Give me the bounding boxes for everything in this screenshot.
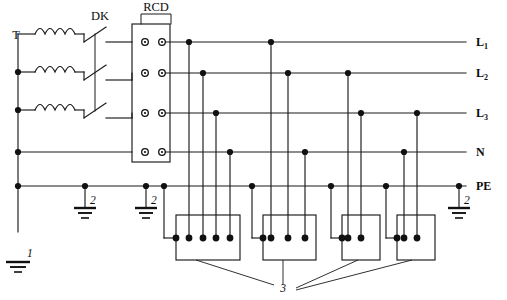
tap-node-s4-N — [401, 149, 407, 155]
socket-3-terminal-PE — [339, 235, 346, 242]
bus-label-L3-sub: 3 — [484, 113, 488, 122]
socket-1-terminal-PE — [173, 235, 180, 242]
junction-node-star-3 — [15, 149, 21, 155]
callout-label-2b: 2 — [151, 194, 157, 206]
tap-node-s2-L1 — [268, 39, 274, 45]
tap-node-s2-N — [302, 149, 308, 155]
winding-3-coil — [35, 105, 75, 111]
main-switch-label: DK — [91, 9, 109, 23]
junction-node-star-pe — [15, 183, 21, 189]
tap-node-s1-PE — [161, 183, 167, 189]
tap-node-s3-PE — [328, 183, 334, 189]
socket-1-terminal-N — [227, 235, 234, 242]
bus-label-L3-base: L — [476, 106, 484, 120]
rcd-input-terminals — [142, 39, 149, 156]
callout-label-1: 1 — [27, 247, 33, 259]
earth-2a-node — [82, 183, 88, 189]
junction-node-star-1 — [15, 69, 21, 75]
socket-2-drops — [249, 39, 308, 238]
socket-2-terminal-L1 — [268, 235, 275, 242]
leader-socket-4 — [296, 260, 412, 290]
rcd-label: RCD — [143, 0, 169, 14]
schematic-canvas: T DK RCD L 1 L 2 L 3 N PE 1 2 2 2 3 — [0, 0, 507, 300]
callout-3-leaders — [196, 260, 412, 290]
callout-label-2c: 2 — [464, 194, 470, 206]
socket-4-drops — [383, 110, 420, 238]
transformer-group — [15, 29, 132, 233]
bus-label-L2-base: L — [476, 66, 484, 80]
bus-label-N: N — [476, 145, 485, 159]
socket-1-terminal-L2 — [200, 235, 207, 242]
socket-3-drops — [328, 70, 364, 238]
socket-4-terminal-PE — [394, 235, 401, 242]
socket-2-terminal-PE — [260, 235, 267, 242]
socket-1-drops — [161, 39, 233, 238]
bus-lines — [18, 42, 466, 186]
tap-node-s1-L3 — [213, 110, 219, 116]
earth-2b-node — [143, 183, 149, 189]
leader-socket-3 — [296, 260, 358, 288]
rcd-terminal-in-L1-core — [144, 41, 146, 43]
tap-node-s3-L2 — [345, 70, 351, 76]
rcd-terminal-out-L1-core — [161, 41, 163, 43]
bus-label-L1-base: L — [476, 35, 484, 49]
bus-label-L3: L 3 — [476, 106, 488, 122]
bus-label-L2-sub: 2 — [484, 73, 488, 82]
tap-node-s2-PE — [249, 183, 255, 189]
winding-1-coil — [35, 29, 75, 35]
tap-node-s2-L2 — [285, 70, 291, 76]
rcd-group[interactable] — [132, 14, 171, 162]
socket-4-terminal-N — [401, 235, 408, 242]
socket-1-terminal-L1 — [186, 235, 193, 242]
earth-2c-node — [456, 183, 462, 189]
rcd-output-terminals — [159, 39, 166, 156]
winding-2-coil — [35, 67, 75, 73]
socket-4-terminal-L3 — [414, 235, 421, 242]
socket-3-terminal-L2 — [345, 235, 352, 242]
tap-node-s4-L3 — [414, 110, 420, 116]
socket-outlet-4[interactable] — [394, 215, 435, 260]
rcd-terminal-in-N-core — [144, 151, 146, 153]
tap-node-s1-N — [227, 149, 233, 155]
socket-2-terminal-L2 — [285, 235, 292, 242]
rcd-terminal-out-N-core — [161, 151, 163, 153]
socket-1-terminal-L3 — [213, 235, 220, 242]
tap-node-s3-L3 — [358, 110, 364, 116]
bus-label-L1-sub: 1 — [484, 42, 488, 51]
bus-label-PE: PE — [476, 179, 491, 193]
rcd-terminal-out-L3-core — [161, 112, 163, 114]
socket-outlet-3[interactable] — [339, 215, 380, 260]
circuit-diagram: T DK RCD L 1 L 2 L 3 N PE 1 2 2 2 3 — [0, 0, 507, 300]
rcd-terminal-in-L3-core — [144, 112, 146, 114]
main-switch-group[interactable] — [84, 27, 132, 118]
rcd-label-bracket — [141, 14, 171, 24]
leader-socket-1 — [196, 260, 274, 285]
socket-2-terminal-N — [302, 235, 309, 242]
tap-node-s1-L1 — [186, 39, 192, 45]
tap-node-s1-L2 — [200, 70, 206, 76]
rcd-terminal-out-L2-core — [161, 72, 163, 74]
callout-label-3: 3 — [279, 282, 286, 294]
main-earth-symbol — [6, 262, 30, 272]
bus-label-L2: L 2 — [476, 66, 488, 82]
transformer-label: T — [12, 28, 20, 42]
callout-label-2a: 2 — [90, 194, 96, 206]
bus-label-L1: L 1 — [476, 35, 488, 51]
tap-node-s4-PE — [383, 183, 389, 189]
junction-node-star-2 — [15, 107, 21, 113]
socket-3-terminal-L3 — [358, 235, 365, 242]
rcd-terminal-in-L2-core — [144, 72, 146, 74]
